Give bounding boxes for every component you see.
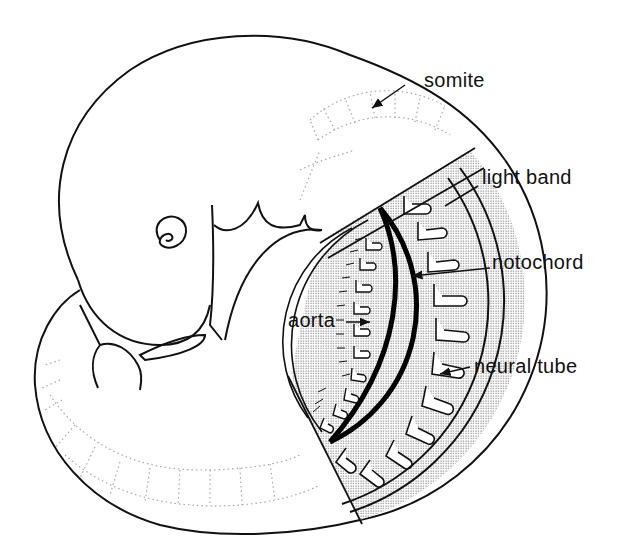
cutaway-section [281,148,525,524]
eye-icon [157,217,186,248]
label-somite: somite [424,70,485,90]
pharyngeal-arches [80,203,322,390]
label-aorta: aorta [288,310,335,330]
label-light-band: light band [482,167,572,187]
label-notochord: notochord [492,252,584,272]
label-neural-tube: neural tube [474,356,577,376]
embryo-diagram: somite light band notochord aorta neural… [0,0,626,551]
